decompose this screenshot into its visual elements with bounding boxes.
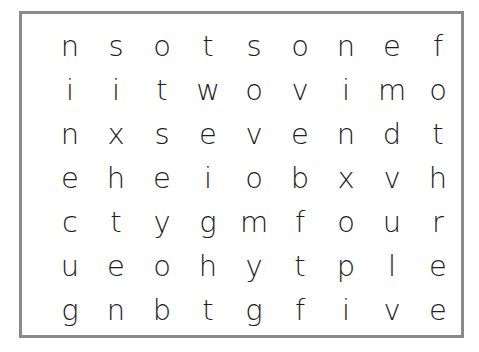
- letter-cell[interactable]: l: [369, 244, 415, 288]
- letter-cell[interactable]: c: [47, 200, 93, 244]
- letter-cell[interactable]: e: [47, 156, 93, 200]
- word-search-frame: nsotsonefiitwovimonxsevendteheiobxvhctyg…: [19, 11, 464, 338]
- letter-cell[interactable]: x: [323, 156, 369, 200]
- letter-cell[interactable]: m: [231, 200, 277, 244]
- letter-cell[interactable]: r: [415, 200, 461, 244]
- letter-cell[interactable]: o: [231, 156, 277, 200]
- letter-cell[interactable]: n: [93, 288, 139, 332]
- letter-cell[interactable]: t: [415, 112, 461, 156]
- letter-cell[interactable]: s: [231, 24, 277, 68]
- letter-cell[interactable]: p: [323, 244, 369, 288]
- letter-cell[interactable]: h: [185, 244, 231, 288]
- letter-cell[interactable]: t: [185, 288, 231, 332]
- letter-cell[interactable]: h: [415, 156, 461, 200]
- letter-cell[interactable]: o: [139, 24, 185, 68]
- letter-cell[interactable]: i: [47, 68, 93, 112]
- letter-cell[interactable]: b: [139, 288, 185, 332]
- letter-cell[interactable]: o: [139, 244, 185, 288]
- letter-cell[interactable]: f: [415, 24, 461, 68]
- letter-cell[interactable]: o: [415, 68, 461, 112]
- letter-cell[interactable]: e: [415, 288, 461, 332]
- letter-cell[interactable]: n: [323, 112, 369, 156]
- letter-cell[interactable]: f: [277, 200, 323, 244]
- letter-cell[interactable]: i: [93, 68, 139, 112]
- letter-cell[interactable]: e: [277, 112, 323, 156]
- letter-cell[interactable]: e: [415, 244, 461, 288]
- letter-cell[interactable]: f: [277, 288, 323, 332]
- letter-cell[interactable]: g: [231, 288, 277, 332]
- letter-cell[interactable]: n: [323, 24, 369, 68]
- letter-cell[interactable]: t: [139, 68, 185, 112]
- letter-cell[interactable]: y: [231, 244, 277, 288]
- letter-cell[interactable]: e: [369, 24, 415, 68]
- letter-cell[interactable]: t: [185, 24, 231, 68]
- letter-cell[interactable]: s: [93, 24, 139, 68]
- letter-cell[interactable]: m: [369, 68, 415, 112]
- letter-cell[interactable]: o: [277, 24, 323, 68]
- letter-cell[interactable]: x: [93, 112, 139, 156]
- letter-cell[interactable]: w: [185, 68, 231, 112]
- letter-cell[interactable]: t: [93, 200, 139, 244]
- letter-cell[interactable]: o: [231, 68, 277, 112]
- letter-cell[interactable]: y: [139, 200, 185, 244]
- letter-cell[interactable]: e: [185, 112, 231, 156]
- letter-cell[interactable]: i: [185, 156, 231, 200]
- letter-cell[interactable]: t: [277, 244, 323, 288]
- letter-cell[interactable]: n: [47, 112, 93, 156]
- letter-cell[interactable]: v: [231, 112, 277, 156]
- letter-cell[interactable]: u: [47, 244, 93, 288]
- letter-cell[interactable]: v: [369, 288, 415, 332]
- letter-cell[interactable]: h: [93, 156, 139, 200]
- letter-cell[interactable]: g: [185, 200, 231, 244]
- letter-cell[interactable]: i: [323, 288, 369, 332]
- letter-cell[interactable]: v: [369, 156, 415, 200]
- letter-cell[interactable]: b: [277, 156, 323, 200]
- letter-cell[interactable]: v: [277, 68, 323, 112]
- letter-grid: nsotsonefiitwovimonxsevendteheiobxvhctyg…: [47, 24, 461, 332]
- letter-cell[interactable]: u: [369, 200, 415, 244]
- letter-cell[interactable]: i: [323, 68, 369, 112]
- letter-cell[interactable]: g: [47, 288, 93, 332]
- letter-cell[interactable]: n: [47, 24, 93, 68]
- letter-cell[interactable]: d: [369, 112, 415, 156]
- letter-cell[interactable]: s: [139, 112, 185, 156]
- letter-cell[interactable]: e: [139, 156, 185, 200]
- letter-cell[interactable]: e: [93, 244, 139, 288]
- letter-cell[interactable]: o: [323, 200, 369, 244]
